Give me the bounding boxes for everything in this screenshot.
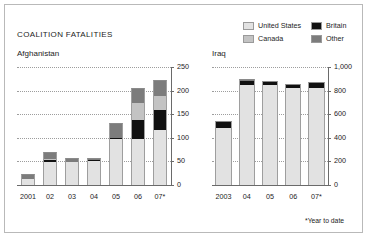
bar-segment-britain	[43, 160, 57, 161]
bar-afghanistan-03	[65, 67, 79, 185]
bar-segment-britain	[153, 110, 167, 129]
bar-segment-united-states	[65, 162, 79, 185]
plot-area: 0501001502002502001020304050607*	[13, 61, 201, 211]
legend-item-britain: Britain	[311, 22, 363, 30]
plot-area: 02004006008001,000200304050607*	[208, 61, 360, 211]
x-axis-label: 2003	[212, 193, 235, 200]
y-axis-label: 250	[177, 63, 189, 70]
legend-swatch-britain	[311, 22, 322, 30]
bar-afghanistan-07	[153, 67, 167, 185]
bar-iraq-07	[308, 67, 324, 185]
bar-segment-canada	[131, 103, 145, 120]
y-axis-tick	[171, 185, 174, 186]
page-title: COALITION FATALITIES	[17, 30, 113, 39]
legend-swatch-united-states	[243, 22, 254, 30]
chart-title-iraq: Iraq	[212, 49, 226, 58]
legend-item-other: Other	[311, 35, 363, 43]
bar-segment-other	[109, 123, 123, 138]
bar-segment-united-states	[43, 162, 57, 185]
bar-segment-other	[43, 152, 57, 159]
chart-afghanistan: 0501001502002502001020304050607*	[13, 61, 201, 211]
bar-segment-united-states	[215, 128, 231, 185]
bar-segment-britain	[131, 120, 145, 138]
bar-segment-canada	[43, 159, 57, 161]
bar-segment-britain	[215, 121, 231, 127]
bar-segment-united-states	[131, 139, 145, 185]
chart-footnote: *Year to date	[305, 217, 344, 224]
legend-swatch-other	[311, 35, 322, 43]
y-axis-label: 400	[334, 134, 346, 141]
x-axis-label: 04	[235, 193, 258, 200]
bar-segment-other	[65, 158, 79, 163]
y-axis-line	[328, 67, 329, 185]
x-axis-label: 02	[39, 193, 61, 200]
bar-segment-canada	[153, 96, 167, 110]
legend-label-canada: Canada	[258, 35, 283, 42]
x-axis-label: 07*	[149, 193, 171, 200]
bar-segment-britain	[239, 81, 255, 85]
y-axis-label: 600	[334, 110, 346, 117]
bar-segment-other	[285, 84, 301, 85]
bar-segment-other	[262, 81, 278, 82]
legend-item-united-states: United States	[243, 22, 311, 30]
bar-segment-united-states	[285, 88, 301, 185]
y-axis-line	[171, 67, 172, 185]
x-axis-label: 03	[61, 193, 83, 200]
legend-label-united-states: United States	[258, 22, 301, 29]
bar-segment-other	[153, 80, 167, 96]
bar-afghanistan-2001	[21, 67, 35, 185]
x-axis-line	[17, 185, 171, 186]
bar-segment-britain	[285, 85, 301, 88]
bar-segment-united-states	[239, 85, 255, 185]
legend-swatch-canada	[243, 35, 254, 43]
y-axis-label: 200	[334, 157, 346, 164]
chart-legend: United States Britain Canada Other	[243, 19, 363, 45]
bar-segment-united-states	[262, 85, 278, 185]
bar-segment-united-states	[21, 179, 35, 185]
bar-segment-other	[239, 79, 255, 82]
y-axis-label: 200	[177, 87, 189, 94]
y-axis-label: 50	[177, 157, 185, 164]
bar-afghanistan-04	[87, 67, 101, 185]
bar-segment-other	[131, 88, 145, 103]
bar-afghanistan-02	[43, 67, 57, 185]
bar-segment-united-states	[109, 138, 123, 185]
chart-iraq: 02004006008001,000200304050607*	[208, 61, 360, 211]
y-axis-label: 150	[177, 110, 189, 117]
x-axis-label: 06	[282, 193, 305, 200]
x-axis-label: 07*	[305, 193, 328, 200]
bar-segment-united-states	[153, 130, 167, 185]
bar-iraq-2003	[215, 67, 231, 185]
x-axis-label: 2001	[17, 193, 39, 200]
legend-item-canada: Canada	[243, 35, 311, 43]
bar-segment-britain	[308, 83, 324, 88]
bar-afghanistan-06	[131, 67, 145, 185]
x-axis-line	[212, 185, 328, 186]
x-axis-label: 06	[127, 193, 149, 200]
bar-iraq-05	[262, 67, 278, 185]
bar-iraq-06	[285, 67, 301, 185]
legend-label-britain: Britain	[326, 22, 346, 29]
y-axis-label: 1,000	[334, 63, 352, 70]
bar-segment-united-states	[87, 160, 101, 185]
y-axis-tick	[328, 185, 331, 186]
y-axis-label: 800	[334, 87, 346, 94]
bar-segment-other	[87, 158, 101, 160]
chart-title-afghanistan: Afghanistan	[17, 49, 59, 58]
y-axis-label: 0	[334, 181, 338, 188]
bar-iraq-04	[239, 67, 255, 185]
x-axis-label: 05	[105, 193, 127, 200]
y-axis-label: 100	[177, 134, 189, 141]
infographic-panel: COALITION FATALITIES United States Brita…	[4, 4, 363, 233]
legend-label-other: Other	[326, 35, 344, 42]
x-axis-label: 05	[258, 193, 281, 200]
bar-afghanistan-05	[109, 67, 123, 185]
bar-segment-united-states	[308, 88, 324, 185]
x-axis-label: 04	[83, 193, 105, 200]
bar-segment-britain	[262, 82, 278, 85]
bar-segment-other	[21, 174, 35, 180]
y-axis-label: 0	[177, 181, 181, 188]
bar-segment-other	[308, 82, 324, 83]
